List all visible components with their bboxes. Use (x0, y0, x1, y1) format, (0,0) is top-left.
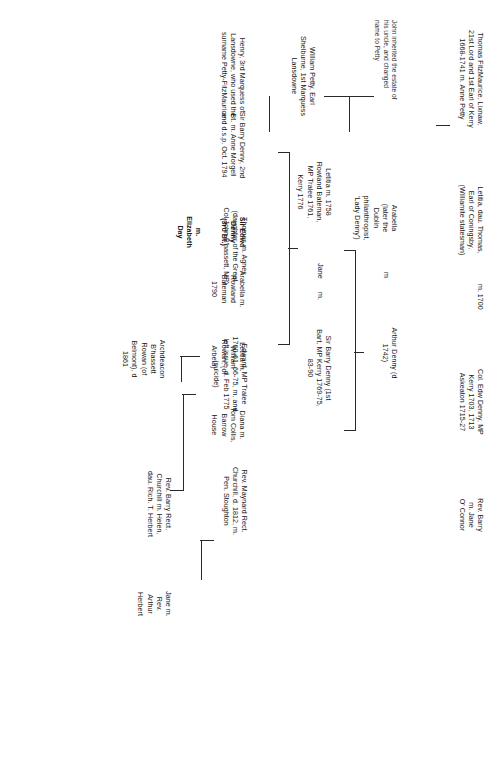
connector-vertical (182, 394, 196, 395)
node-sir-barry-denny-1st-bt: Sir Barry Denny (1st Bart, MP Kerry 1769… (304, 312, 332, 424)
connector-horizontal (183, 394, 184, 490)
node-arthur-denny: Arthur Denny (d 1742) (380, 308, 398, 398)
connector-horizontal (269, 96, 270, 132)
connector-vertical (324, 96, 374, 97)
node-archdeacon-bhassett-rowan: Archdeacon B'hassett Rowan (of Belmont),… (120, 330, 166, 388)
node-sir-barry-denny-2nd-bt: Sir Barry Denny, 2nd Bt. m. Anne Morgell… (218, 92, 246, 198)
connector-vertical (170, 490, 184, 491)
node-elizabeth-day: m. Elizabeth Day (174, 206, 202, 258)
node-rev-barry-rect-churchill: Rev. Barry Rect. Churchill m. Helen, dau… (144, 452, 172, 556)
connector-vertical (288, 248, 298, 249)
node-jane-herbert: Jane m. Rev. Arthur Herbert (135, 578, 172, 630)
node-letitia-rowan: Letitia m. William Rowan, (of Arbela) (209, 330, 246, 384)
connector-vertical (278, 152, 290, 153)
node-letitia-coningsby: Letitia, dau. Thomas, Earl of Coningsby,… (456, 170, 484, 270)
connector-vertical (436, 125, 450, 126)
connector-horizontal (355, 250, 356, 430)
node-arabella-bateman: Arabella m. Rowland Bateman 1790 (209, 262, 246, 316)
node-jane: Jane (315, 256, 324, 286)
node-letitia-1758-bateman: Letitia m. 1758 Rowland Bateman, MP Tral… (295, 140, 332, 244)
connector-vertical (344, 430, 356, 431)
connector-vertical (200, 540, 214, 541)
connector-horizontal (201, 540, 202, 580)
genealogy-chart-canvas: Thomas FitzMaurice, Lixnaw, 21st Lord an… (0, 0, 502, 770)
node-sir-edwd-denny-3rd-bt: Sir Edwd Denny (3rd Bt.) (218, 206, 246, 258)
connector-horizontal (349, 96, 350, 132)
node-thomas-fitzmaurice: Thomas FitzMaurice, Lixnaw, 21st Lord an… (456, 20, 484, 138)
node-arabella: Arabella (later the Dublin philanthropis… (352, 176, 398, 260)
note-john-inherited-estate: John inherited the estate of his uncle, … (373, 20, 398, 136)
node-rev-maynard-churchill: Rev. Maynard Rect. Churchill, d. 1812, m… (220, 446, 248, 556)
connector-horizontal (181, 356, 182, 382)
marriage-marker-arabella: m (381, 272, 390, 278)
node-diana-collis: Diana m. Tom Collis, Barrow House (209, 398, 246, 452)
connector-vertical (344, 250, 356, 251)
node-william-petty: William Petty, Earl Shelburne, 1st Marqu… (288, 18, 316, 134)
node-rev-barry: Rev. Barry m. Jane O' Connor (456, 480, 484, 550)
node-col-edw-denny: Col. Edw Denny, MP Kerry 1703, 1713 Aske… (456, 350, 484, 454)
connector-vertical (278, 344, 290, 345)
connector-vertical (354, 352, 364, 353)
marriage-marker-1700: m. 1700 (475, 284, 484, 310)
marriage-marker-jane: m. (315, 292, 324, 300)
connector-vertical (180, 356, 200, 357)
